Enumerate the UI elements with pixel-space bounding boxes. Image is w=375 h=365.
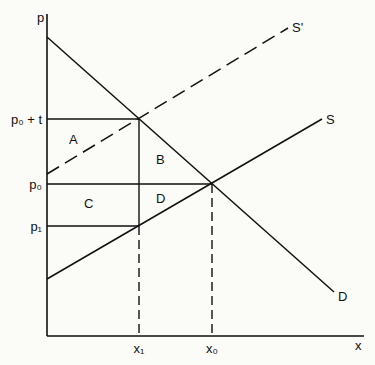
demand-label: D bbox=[338, 289, 347, 304]
price-label-p0: p₀ bbox=[29, 177, 42, 192]
taxed-supply-curve bbox=[47, 28, 288, 174]
region-a-label: A bbox=[69, 132, 78, 147]
taxed-supply-label: S' bbox=[292, 20, 303, 35]
quantity-label-x0: x₀ bbox=[206, 341, 218, 356]
price-label-p0-plus-t: p₀ + t bbox=[11, 112, 42, 127]
region-b-label: B bbox=[156, 152, 165, 167]
y-axis-label: p bbox=[37, 10, 44, 25]
price-label-p1: p₁ bbox=[30, 219, 42, 234]
quantity-label-x1: x₁ bbox=[134, 341, 146, 356]
tax-incidence-diagram: p x p₀ + t p₀ p₁ x₁ x₀ S' S D A B C D bbox=[0, 0, 375, 365]
supply-label: S bbox=[326, 112, 335, 127]
region-d-label: D bbox=[156, 191, 165, 206]
x-axis-label: x bbox=[355, 338, 362, 353]
region-c-label: C bbox=[84, 196, 93, 211]
